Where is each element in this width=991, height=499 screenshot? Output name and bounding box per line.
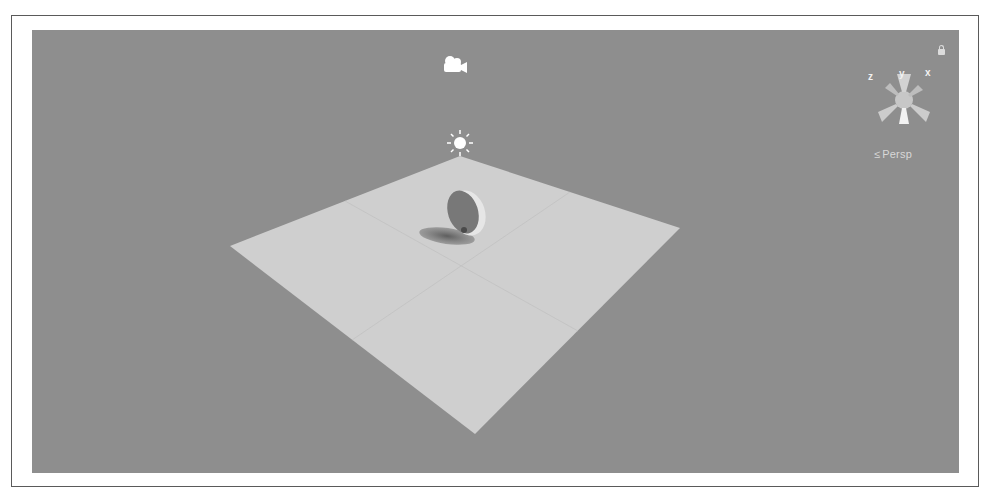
gizmo-x-label: x [925,67,931,78]
lock-icon[interactable] [938,49,945,55]
gizmo-neg-y-cone [899,108,909,124]
gizmo-neg-z-cone [910,104,930,122]
gizmo-neg-x-cone [878,104,898,122]
scene-gizmo[interactable] [878,74,930,124]
gizmo-x-cone [908,85,923,97]
scene-view-viewport[interactable]: y x z ≤Persp [32,30,959,473]
gizmo-z-label: z [868,71,873,82]
projection-toggle[interactable]: ≤Persp [874,148,912,160]
camera-icon[interactable] [444,56,467,73]
sun-icon[interactable] [447,130,473,156]
gizmo-y-label: y [899,68,905,79]
persp-arrow-icon: ≤ [874,148,880,160]
scene-canvas[interactable] [32,30,959,473]
gizmo-z-cone [885,83,899,96]
projection-label: Persp [882,148,912,160]
